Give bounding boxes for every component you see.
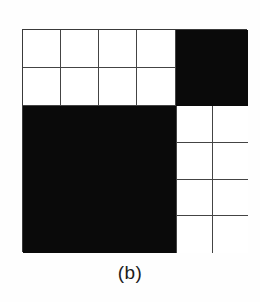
- filled-block: [176, 30, 248, 106]
- grid-cell: [213, 106, 249, 143]
- grid-cell: [137, 30, 175, 68]
- quadrant-top-right: [176, 30, 248, 106]
- grid-cell: [99, 68, 137, 106]
- figure-caption: (b): [0, 262, 260, 284]
- grid-cell: [177, 216, 213, 253]
- grid-cell: [99, 30, 137, 68]
- grid-cell: [177, 106, 213, 143]
- grid-cell: [61, 68, 99, 106]
- grid-cell: [213, 216, 249, 253]
- figure-container: (b): [0, 0, 260, 302]
- grid-cell: [213, 143, 249, 180]
- block-decomposition-diagram: [22, 29, 247, 252]
- filled-block: [23, 106, 176, 253]
- grid-cell: [177, 143, 213, 180]
- grid-cell: [23, 68, 61, 106]
- grid-cell: [137, 68, 175, 106]
- quadrant-top-left: [23, 30, 176, 106]
- grid-cell: [177, 180, 213, 217]
- quadrant-bottom-right: [176, 106, 248, 253]
- grid-cell: [213, 180, 249, 217]
- grid-cell: [23, 30, 61, 68]
- grid-cell: [61, 30, 99, 68]
- quadrant-bottom-left: [23, 106, 176, 253]
